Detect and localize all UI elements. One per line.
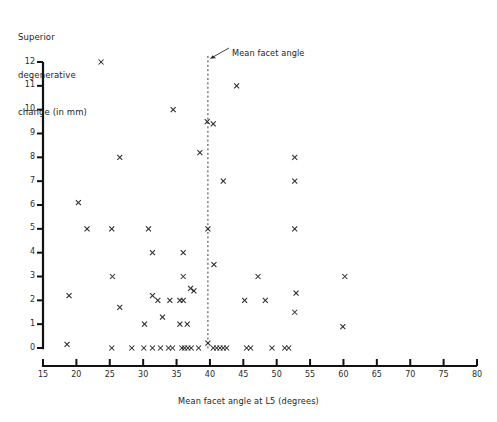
data-point <box>65 342 70 347</box>
y-axis-label: Superior degenerative change (in mm) <box>18 6 87 144</box>
x-tick-label: 80 <box>466 370 488 379</box>
data-point <box>117 155 122 160</box>
data-point <box>340 324 345 329</box>
data-point <box>185 322 190 327</box>
data-point <box>242 298 247 303</box>
data-point <box>196 346 201 351</box>
y-tick-label: 2 <box>13 295 35 304</box>
x-tick-label: 40 <box>199 370 221 379</box>
x-tick-label: 45 <box>232 370 254 379</box>
plot-axes <box>37 62 477 366</box>
data-point <box>263 298 268 303</box>
x-tick-label: 75 <box>433 370 455 379</box>
data-point <box>110 274 115 279</box>
data-point <box>224 346 229 351</box>
data-point <box>255 274 260 279</box>
data-point <box>160 315 165 320</box>
data-point <box>221 179 226 184</box>
x-tick-label: 65 <box>366 370 388 379</box>
data-point <box>181 274 186 279</box>
x-tick-label: 35 <box>166 370 188 379</box>
data-point <box>150 293 155 298</box>
data-point <box>181 298 186 303</box>
data-point <box>155 298 160 303</box>
data-point <box>188 286 193 291</box>
data-point <box>167 298 172 303</box>
y-tick-label: 11 <box>13 80 35 89</box>
y-tick-label: 4 <box>13 247 35 256</box>
data-point <box>205 226 210 231</box>
data-point <box>158 346 163 351</box>
x-tick-label: 20 <box>65 370 87 379</box>
data-point <box>129 346 134 351</box>
data-point <box>171 107 176 112</box>
data-point <box>177 322 182 327</box>
data-point <box>142 322 147 327</box>
data-point <box>150 250 155 255</box>
y-tick-label: 0 <box>13 343 35 352</box>
y-axis-label-line-1: Superior <box>18 31 87 44</box>
x-tick-label: 25 <box>99 370 121 379</box>
y-tick-label: 12 <box>13 57 35 66</box>
data-point <box>85 226 90 231</box>
data-point <box>286 346 291 351</box>
data-point <box>146 226 151 231</box>
data-point <box>67 293 72 298</box>
y-axis-label-line-2: degenerative <box>18 69 87 82</box>
data-point <box>342 274 347 279</box>
x-tick-label: 70 <box>399 370 421 379</box>
data-point <box>248 346 253 351</box>
data-point <box>99 60 104 65</box>
data-point <box>205 119 210 124</box>
data-point <box>197 150 202 155</box>
scatter-plot-figure: Superior degenerative change (in mm) Mea… <box>0 0 497 422</box>
data-point <box>117 305 122 310</box>
data-point <box>179 346 184 351</box>
data-point <box>294 291 299 296</box>
y-tick-label: 9 <box>13 128 35 137</box>
data-point <box>211 121 216 126</box>
y-tick-label: 8 <box>13 152 35 161</box>
x-tick-label: 55 <box>299 370 321 379</box>
data-point <box>292 310 297 315</box>
mean-facet-angle-annotation: Mean facet angle <box>232 48 304 58</box>
x-tick-label: 60 <box>332 370 354 379</box>
data-point <box>292 226 297 231</box>
y-tick-label: 1 <box>13 319 35 328</box>
data-point <box>150 346 155 351</box>
data-point <box>141 346 146 351</box>
x-tick-label: 30 <box>132 370 154 379</box>
data-point <box>270 346 275 351</box>
y-tick-label: 6 <box>13 200 35 209</box>
y-tick-label: 10 <box>13 104 35 113</box>
x-axis-label: Mean facet angle at L5 (degrees) <box>0 396 497 406</box>
data-point <box>181 250 186 255</box>
data-point <box>109 346 114 351</box>
data-point <box>170 346 175 351</box>
data-point <box>211 262 216 267</box>
data-point <box>292 155 297 160</box>
data-point <box>292 179 297 184</box>
data-point <box>76 200 81 205</box>
data-point <box>234 83 239 88</box>
data-point-layer <box>65 60 348 351</box>
y-tick-label: 5 <box>13 223 35 232</box>
x-tick-label: 50 <box>266 370 288 379</box>
data-point <box>109 226 114 231</box>
x-tick-label: 15 <box>32 370 54 379</box>
data-point <box>205 341 210 346</box>
data-point <box>191 288 196 293</box>
annotation-leader-line <box>210 48 229 59</box>
y-tick-label: 7 <box>13 176 35 185</box>
y-tick-label: 3 <box>13 271 35 280</box>
data-point <box>189 346 194 351</box>
